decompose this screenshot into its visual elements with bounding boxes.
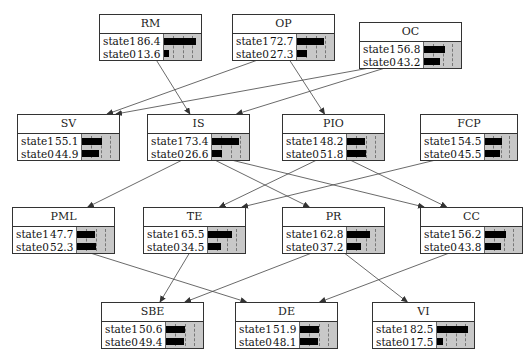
gridline [513, 229, 514, 251]
state-value: 26.6 [185, 148, 208, 161]
belief-bars [81, 134, 119, 160]
state-labels: state165.5state034.5 [144, 227, 207, 253]
belief-bar-state0 [77, 243, 96, 250]
state-labels: state182.5state017.5 [373, 322, 436, 348]
state-labels: state156.2state043.8 [421, 227, 484, 253]
state-label: state1 [105, 323, 139, 336]
belief-bars [207, 227, 245, 253]
state-value: 65.5 [181, 228, 204, 241]
gridline [375, 229, 376, 251]
belief-bar-state0 [208, 243, 221, 250]
state-labels: state156.8state043.2 [360, 42, 423, 68]
state-row-state0: state049.4 [105, 336, 165, 349]
edge-is-to-pr [215, 160, 310, 207]
node-te[interactable]: TE state165.5state034.5 [143, 207, 246, 254]
edge-pr-to-sbe [185, 253, 312, 302]
belief-bar-state1 [485, 138, 502, 145]
gridline [328, 324, 329, 346]
state-row-state1: state155.1 [21, 135, 81, 148]
state-row-state1: state156.8 [363, 43, 423, 56]
state-value: 72.7 [270, 35, 293, 48]
belief-bar-state1 [77, 231, 95, 238]
state-row-state1: state154.5 [424, 135, 484, 148]
node-body: state172.7state027.3 [233, 34, 334, 60]
node-body: state156.8state043.2 [360, 42, 461, 68]
state-labels: state172.7state027.3 [233, 34, 296, 60]
belief-bar-state1 [212, 138, 239, 145]
node-rm[interactable]: RM state186.4state013.6 [99, 14, 202, 61]
state-label: state0 [236, 48, 270, 61]
state-value: 45.5 [458, 148, 481, 161]
state-label: state0 [105, 336, 139, 349]
belief-bars [346, 134, 384, 160]
node-sv[interactable]: SV state155.1state044.9 [17, 114, 120, 161]
state-value: 51.8 [320, 148, 343, 161]
node-body: state147.7state052.3 [13, 227, 114, 253]
node-body: state150.6state049.4 [102, 322, 203, 348]
node-pml[interactable]: PML state147.7state052.3 [12, 207, 115, 254]
state-row-state0: state051.8 [286, 148, 346, 161]
state-row-state1: state162.8 [286, 228, 346, 241]
node-op[interactable]: OP state172.7state027.3 [232, 14, 335, 61]
state-label: state0 [424, 241, 458, 254]
gridline [375, 136, 376, 158]
state-row-state1: state182.5 [376, 323, 436, 336]
state-label: state1 [236, 35, 270, 48]
state-row-state1: state172.7 [236, 35, 296, 48]
state-value: 86.4 [137, 35, 160, 48]
state-label: state0 [424, 148, 458, 161]
state-row-state0: state052.3 [16, 241, 76, 254]
node-pr[interactable]: PR state162.8state037.2 [282, 207, 385, 254]
belief-bars [299, 322, 337, 348]
belief-bar-state1 [164, 38, 196, 45]
node-body: state156.2state043.8 [421, 227, 522, 253]
state-value: 49.4 [139, 336, 162, 349]
state-value: 43.2 [397, 56, 420, 69]
node-cc[interactable]: CC state156.2state043.8 [420, 207, 523, 254]
state-row-state0: state044.9 [21, 148, 81, 161]
state-row-state0: state013.6 [103, 48, 163, 61]
belief-bar-state0 [485, 150, 500, 157]
state-label: state1 [16, 228, 50, 241]
node-de[interactable]: DE state151.9state048.1 [235, 302, 338, 349]
belief-bars [211, 134, 249, 160]
state-label: state1 [363, 43, 397, 56]
belief-bar-state1 [485, 231, 506, 238]
belief-bar-state1 [300, 326, 319, 333]
state-value: 52.3 [50, 241, 73, 254]
state-value: 37.2 [320, 241, 343, 254]
node-is[interactable]: IS state173.4state026.6 [147, 114, 250, 161]
node-oc[interactable]: OC state156.8state043.2 [359, 22, 462, 69]
edge-te-to-sbe [160, 253, 189, 302]
node-sbe[interactable]: SBE state150.6state049.4 [101, 302, 204, 349]
edge-pml-to-de [90, 253, 246, 302]
state-labels: state173.4state026.6 [148, 134, 211, 160]
node-pio[interactable]: PIO state148.2state051.8 [282, 114, 385, 161]
edge-oc-to-is [237, 68, 385, 114]
state-value: 54.5 [458, 135, 481, 148]
belief-bar-state1 [297, 38, 324, 45]
state-label: state1 [286, 228, 320, 241]
gridline [110, 136, 111, 158]
node-vi[interactable]: VI state182.5state017.5 [372, 302, 475, 349]
node-title: PR [283, 208, 384, 227]
state-row-state0: state048.1 [239, 336, 299, 349]
gridline [452, 44, 453, 66]
edge-pio-to-cc [350, 160, 447, 207]
node-body: state154.5state045.5 [421, 134, 517, 160]
state-value: 56.8 [397, 43, 420, 56]
edge-cc-to-de [320, 253, 450, 302]
state-label: state0 [286, 148, 320, 161]
state-label: state0 [147, 241, 181, 254]
node-fcp[interactable]: FCP state154.5state045.5 [420, 114, 518, 161]
belief-bars [165, 322, 203, 348]
belief-bar-state0 [82, 150, 99, 157]
belief-bars [436, 322, 474, 348]
state-row-state1: state156.2 [424, 228, 484, 241]
edge-pio-to-te [220, 160, 317, 207]
node-title: TE [144, 208, 245, 227]
state-value: 13.6 [137, 48, 160, 61]
belief-bar-state0 [212, 150, 222, 157]
node-title: IS [148, 115, 249, 134]
belief-bar-state1 [166, 326, 185, 333]
